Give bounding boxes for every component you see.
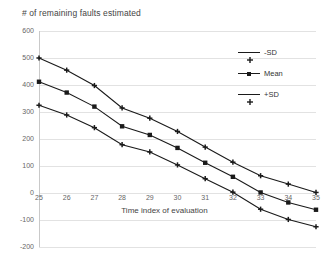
legend-label: +SD — [264, 90, 279, 99]
legend-plus-marker-icon — [238, 48, 260, 58]
legend-item-plussd[interactable]: +SD — [238, 84, 324, 105]
legend-item-mean[interactable]: Mean — [238, 63, 324, 84]
legend-label: -SD — [264, 48, 277, 57]
legend-item-minussd[interactable]: -SD — [238, 42, 324, 63]
legend-square-marker-icon — [238, 69, 260, 79]
legend-label: Mean — [264, 69, 283, 78]
legend-plus-marker-icon — [238, 90, 260, 100]
chart-legend: -SDMean+SD — [238, 42, 324, 105]
series-plot — [0, 0, 329, 261]
chart-container: # of remaining faults estimated 60050040… — [0, 0, 329, 261]
series-plussd — [36, 103, 318, 230]
